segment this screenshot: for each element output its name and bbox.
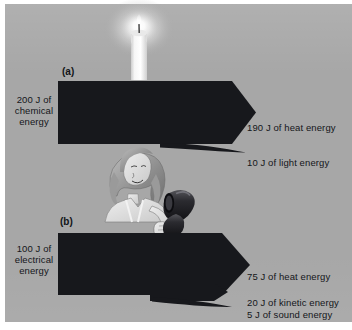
panel-a-output-heat-label: 190 J of heat energy — [247, 122, 336, 133]
arrow-a-heat — [58, 81, 256, 144]
woman-with-hair-dryer-illustration — [105, 147, 195, 238]
energy-transfer-figure: (a) 200 J of chemical energy 190 J of he… — [0, 0, 352, 330]
panel-b-tag: (b) — [60, 216, 73, 227]
panel-b-input-label: 100 J of electrical energy — [3, 243, 65, 277]
panel-a-tag: (a) — [62, 66, 74, 77]
arrow-a-light — [160, 143, 246, 153]
panel-a-input-label: 200 J of chemical energy — [3, 94, 65, 128]
panel-b-output-sound-label: 5 J of sound energy — [247, 309, 332, 320]
panel-a-output-light-label: 10 J of light energy — [247, 157, 329, 168]
panel-b-output-kinetic-label: 20 J of kinetic energy — [247, 297, 339, 308]
panel-b-output-heat-label: 75 J of heat energy — [247, 271, 330, 282]
candle-illustration — [103, 0, 175, 80]
